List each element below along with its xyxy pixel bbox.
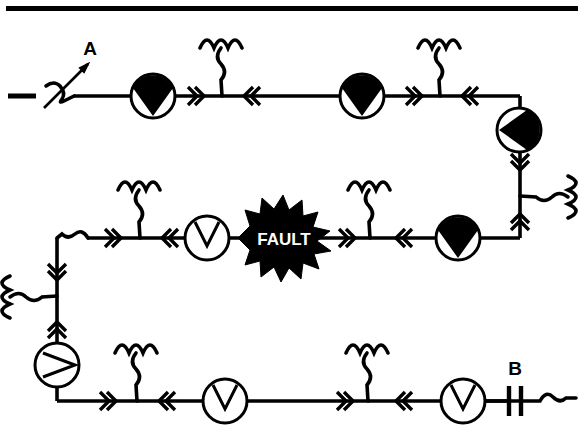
fault-label: FAULT: [257, 230, 311, 249]
device-rec-6[interactable]: [35, 343, 79, 387]
device-xfmr-3[interactable]: [520, 176, 576, 218]
diagram-canvas: A: [0, 0, 584, 433]
disconnect-switch-a[interactable]: [44, 64, 88, 108]
device-rec-2[interactable]: [340, 74, 384, 118]
device-rec-8[interactable]: [441, 379, 485, 423]
fault-marker[interactable]: FAULT: [238, 195, 331, 282]
device-xfmr-7[interactable]: [115, 345, 157, 401]
device-xfmr-5[interactable]: [348, 182, 390, 238]
device-rec-4[interactable]: [185, 216, 229, 260]
device-xfmr-4[interactable]: [118, 182, 160, 238]
bus-top: [8, 96, 520, 112]
middle-bus-left-terminal: [57, 232, 88, 238]
device-rec-5[interactable]: [436, 216, 480, 260]
device-rec-1[interactable]: [131, 74, 175, 118]
device-xfmr-1[interactable]: [200, 40, 242, 96]
label-switch-a: A: [83, 38, 97, 59]
device-xfmr-6[interactable]: [2, 276, 57, 318]
frame-top-rule: [6, 6, 578, 11]
label-switch-b: B: [508, 358, 522, 379]
device-xfmr-8[interactable]: [346, 345, 388, 401]
device-xfmr-2[interactable]: [418, 40, 460, 96]
device-rec-7[interactable]: [203, 379, 247, 423]
power-distribution-diagram: A: [0, 0, 584, 433]
open-breaker-b[interactable]: [485, 386, 576, 416]
device-rec-3[interactable]: [497, 108, 541, 152]
